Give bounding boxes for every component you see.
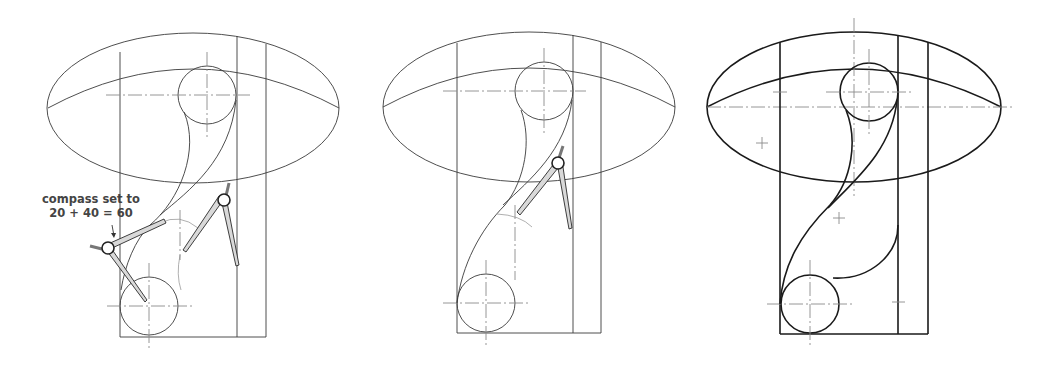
- outer-ellipse: [47, 33, 339, 183]
- construction-curve-left: [121, 112, 190, 290]
- panel-step-3: [707, 18, 1015, 348]
- arc-swing: [497, 214, 532, 227]
- leader-arrowhead: [111, 233, 116, 238]
- compass-leg-needle: [107, 248, 147, 302]
- outline-curve-top-right: [828, 100, 897, 208]
- compass-leg-needle: [558, 167, 572, 229]
- compass-left: [90, 219, 166, 302]
- panel-step-1: [47, 33, 339, 350]
- inner-arc: [48, 69, 339, 108]
- compass-leg-pencil: [183, 196, 224, 252]
- outline-curve-bottom-right: [833, 225, 898, 278]
- compass: [517, 146, 572, 229]
- compass-leg-pencil: [108, 219, 166, 249]
- compass-leg-pencil: [517, 165, 558, 215]
- centre-mark-cross: [756, 137, 768, 149]
- drawing-canvas: [0, 0, 1056, 365]
- compass-leg-needle: [222, 202, 239, 266]
- centre-mark-cross: [833, 212, 845, 224]
- tangent-curve-left: [457, 110, 526, 303]
- compass-hinge: [102, 242, 114, 254]
- panel-step-2: [383, 32, 675, 347]
- compass-hinge: [218, 194, 230, 206]
- compass-hinge: [552, 157, 564, 169]
- compass-handle: [559, 146, 563, 158]
- centre-marks: [756, 92, 905, 302]
- arc-swing-2: [178, 255, 181, 290]
- compass-right: [183, 183, 239, 266]
- compass-handle: [90, 246, 102, 249]
- outer-ellipse: [383, 32, 675, 182]
- inner-arc: [383, 68, 675, 107]
